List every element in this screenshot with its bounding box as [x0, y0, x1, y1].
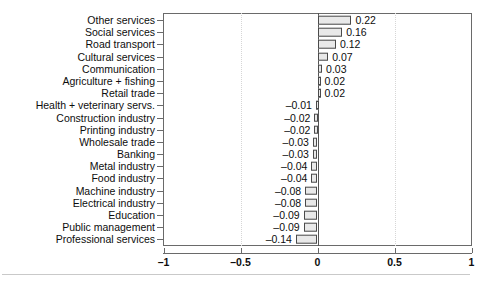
x-tick — [318, 248, 319, 253]
bar-row: Agriculture + fishing0.02 — [0, 75, 486, 87]
category-tick — [157, 81, 163, 82]
bar-row: Road transport0.12 — [0, 38, 486, 50]
bar — [318, 40, 336, 49]
bar-row: Professional services–0.14 — [0, 233, 486, 245]
value-label: –0.09 — [273, 210, 299, 221]
x-tick — [241, 248, 242, 253]
category-tick — [157, 239, 163, 240]
bar-row: Construction industry–0.02 — [0, 111, 486, 123]
bar — [305, 186, 317, 195]
category-label: Machine industry — [76, 185, 155, 196]
bar-row: Social services0.16 — [0, 26, 486, 38]
category-label: Retail trade — [101, 88, 155, 99]
value-label: –0.08 — [275, 197, 301, 208]
category-tick — [157, 142, 163, 143]
bar-row: Wholesale trade–0.03 — [0, 136, 486, 148]
category-label: Social services — [85, 27, 155, 38]
category-label: Other services — [87, 15, 155, 26]
bar-row: Food industry–0.04 — [0, 172, 486, 184]
category-label: Electrical industry — [73, 197, 155, 208]
value-label: 0.22 — [355, 15, 375, 26]
bar — [318, 16, 352, 25]
caption-divider — [2, 274, 470, 275]
x-axis-line — [163, 253, 472, 254]
category-tick — [157, 227, 163, 228]
bar — [316, 101, 319, 110]
bar — [318, 77, 321, 86]
value-label: –0.01 — [286, 100, 312, 111]
category-label: Banking — [117, 149, 155, 160]
bar-row: Electrical industry–0.08 — [0, 197, 486, 209]
category-tick — [157, 130, 163, 131]
category-label: Construction industry — [56, 112, 155, 123]
x-tick — [472, 248, 473, 253]
x-tick-label: 0 — [315, 256, 321, 268]
category-label: Public management — [62, 222, 155, 233]
category-tick — [157, 44, 163, 45]
category-label: Cultural services — [77, 51, 155, 62]
category-tick — [157, 20, 163, 21]
bar-chart: Other services0.22Social services0.16Roa… — [0, 0, 486, 285]
category-tick — [157, 69, 163, 70]
category-label: Education — [108, 210, 155, 221]
category-tick — [157, 93, 163, 94]
value-label: 0.12 — [340, 39, 360, 50]
category-tick — [157, 203, 163, 204]
x-tick-label: –1 — [158, 256, 170, 268]
bar — [314, 113, 317, 122]
bar — [313, 150, 318, 159]
value-label: –0.02 — [284, 124, 310, 135]
bar — [305, 199, 317, 208]
bar — [318, 28, 343, 37]
bar-row: Public management–0.09 — [0, 221, 486, 233]
bar-row: Machine industry–0.08 — [0, 185, 486, 197]
x-tick-label: 0.5 — [387, 256, 402, 268]
value-label: –0.04 — [281, 161, 307, 172]
bar — [296, 235, 318, 244]
category-tick — [157, 166, 163, 167]
category-tick — [157, 57, 163, 58]
category-tick — [157, 32, 163, 33]
bar-row: Cultural services0.07 — [0, 51, 486, 63]
category-label: Food industry — [91, 173, 155, 184]
value-label: –0.04 — [281, 173, 307, 184]
category-label: Wholesale trade — [79, 136, 155, 147]
category-tick — [157, 105, 163, 106]
bar — [318, 65, 323, 74]
category-label: Road transport — [86, 39, 155, 50]
category-label: Health + veterinary servs. — [36, 100, 155, 111]
category-label: Professional services — [56, 234, 155, 245]
category-tick — [157, 154, 163, 155]
x-tick-label: –0.5 — [230, 256, 250, 268]
category-label: Metal industry — [90, 161, 155, 172]
bar — [311, 162, 317, 171]
category-label: Printing industry — [80, 124, 155, 135]
value-label: 0.02 — [325, 88, 345, 99]
category-tick — [157, 215, 163, 216]
bar-row: Education–0.09 — [0, 209, 486, 221]
bar — [304, 223, 318, 232]
value-label: 0.02 — [325, 75, 345, 86]
value-label: –0.14 — [266, 234, 292, 245]
category-label: Agriculture + fishing — [62, 75, 155, 86]
value-label: 0.16 — [346, 27, 366, 38]
x-tick — [164, 248, 165, 253]
category-tick — [157, 191, 163, 192]
value-label: –0.03 — [283, 136, 309, 147]
bar — [311, 174, 317, 183]
bar — [318, 89, 321, 98]
bar-row: Other services0.22 — [0, 14, 486, 26]
category-tick — [157, 118, 163, 119]
value-label: –0.02 — [284, 112, 310, 123]
bar — [314, 125, 317, 134]
bar — [318, 52, 329, 61]
value-label: –0.08 — [275, 185, 301, 196]
value-label: 0.03 — [326, 63, 346, 74]
x-tick-label: 1 — [469, 256, 475, 268]
value-label: –0.03 — [283, 149, 309, 160]
bar-row: Retail trade0.02 — [0, 87, 486, 99]
value-label: –0.09 — [273, 222, 299, 233]
bar-row: Communication0.03 — [0, 63, 486, 75]
bar-row: Printing industry–0.02 — [0, 124, 486, 136]
bar-row: Metal industry–0.04 — [0, 160, 486, 172]
